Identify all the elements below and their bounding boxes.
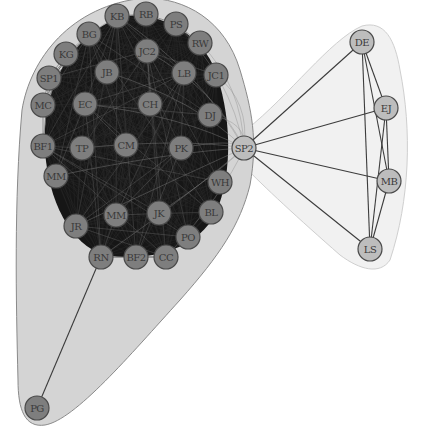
node-mm2[interactable]: MM xyxy=(104,203,128,227)
node-bg[interactable]: BG xyxy=(77,22,101,46)
node-wh[interactable]: WH xyxy=(208,170,232,194)
node-sp1[interactable]: SP1 xyxy=(37,66,61,90)
node-ch[interactable]: CH xyxy=(138,92,162,116)
node-tp[interactable]: TP xyxy=(70,136,94,160)
node-mb[interactable]: MB xyxy=(377,169,401,193)
node-label: JC1 xyxy=(207,70,225,81)
node-jr[interactable]: JR xyxy=(64,214,88,238)
node-rn[interactable]: RN xyxy=(89,245,113,269)
node-label: BF2 xyxy=(126,252,145,263)
node-de[interactable]: DE xyxy=(350,30,374,54)
node-jk[interactable]: JK xyxy=(147,201,171,225)
node-label: SP2 xyxy=(235,143,254,154)
node-label: DJ xyxy=(204,110,216,121)
node-label: EJ xyxy=(381,103,392,114)
node-label: MC xyxy=(35,100,53,111)
node-pk[interactable]: PK xyxy=(169,136,193,160)
node-label: RB xyxy=(139,9,153,20)
node-bl[interactable]: BL xyxy=(199,200,223,224)
node-jc2[interactable]: JC2 xyxy=(135,39,159,63)
node-label: BF1 xyxy=(33,141,52,152)
node-label: CC xyxy=(159,252,174,263)
node-label: KG xyxy=(59,49,74,60)
node-ps[interactable]: PS xyxy=(164,12,188,36)
node-label: TP xyxy=(76,143,89,154)
node-label: BG xyxy=(82,29,97,40)
node-rw[interactable]: RW xyxy=(188,31,212,55)
node-po[interactable]: PO xyxy=(176,225,200,249)
node-label: PO xyxy=(181,232,195,243)
node-label: JR xyxy=(70,221,83,232)
node-label: JB xyxy=(101,67,113,78)
node-ej[interactable]: EJ xyxy=(374,96,398,120)
node-label: DE xyxy=(355,37,370,48)
node-jc1[interactable]: JC1 xyxy=(204,63,228,87)
node-label: JK xyxy=(153,208,166,219)
node-rb[interactable]: RB xyxy=(134,2,158,26)
node-pg[interactable]: PG xyxy=(25,396,49,420)
node-mm1[interactable]: MM xyxy=(44,164,68,188)
node-label: BL xyxy=(205,207,219,218)
node-bf2[interactable]: BF2 xyxy=(124,245,148,269)
node-label: KB xyxy=(110,11,124,22)
network-graph: KBRBPSBGRWKGJC2SP1JBLBJC1MCECCHDJBF1TPCM… xyxy=(0,0,429,448)
node-ls[interactable]: LS xyxy=(358,237,382,261)
node-mc[interactable]: MC xyxy=(31,93,55,117)
node-bf1[interactable]: BF1 xyxy=(31,134,55,158)
node-cm[interactable]: CM xyxy=(114,133,138,157)
node-label: MM xyxy=(106,210,126,221)
node-kg[interactable]: KG xyxy=(54,42,78,66)
node-label: MM xyxy=(46,171,66,182)
node-label: PG xyxy=(30,403,44,414)
node-label: LS xyxy=(364,244,377,255)
node-kb[interactable]: KB xyxy=(105,4,129,28)
node-label: PK xyxy=(174,143,188,154)
node-label: MB xyxy=(381,176,398,187)
node-jb[interactable]: JB xyxy=(95,60,119,84)
node-label: RW xyxy=(192,38,210,49)
node-label: LB xyxy=(178,68,191,79)
node-label: JC2 xyxy=(138,46,156,57)
node-label: CH xyxy=(142,99,158,110)
node-label: CM xyxy=(118,140,135,151)
node-cc[interactable]: CC xyxy=(154,245,178,269)
node-lb[interactable]: LB xyxy=(172,61,196,85)
node-label: RN xyxy=(93,252,109,263)
node-label: WH xyxy=(211,177,230,188)
node-label: PS xyxy=(170,19,183,30)
node-dj[interactable]: DJ xyxy=(198,103,222,127)
node-label: SP1 xyxy=(40,73,58,84)
node-sp2[interactable]: SP2 xyxy=(232,136,256,160)
node-label: EC xyxy=(78,99,93,110)
node-ec[interactable]: EC xyxy=(73,92,97,116)
